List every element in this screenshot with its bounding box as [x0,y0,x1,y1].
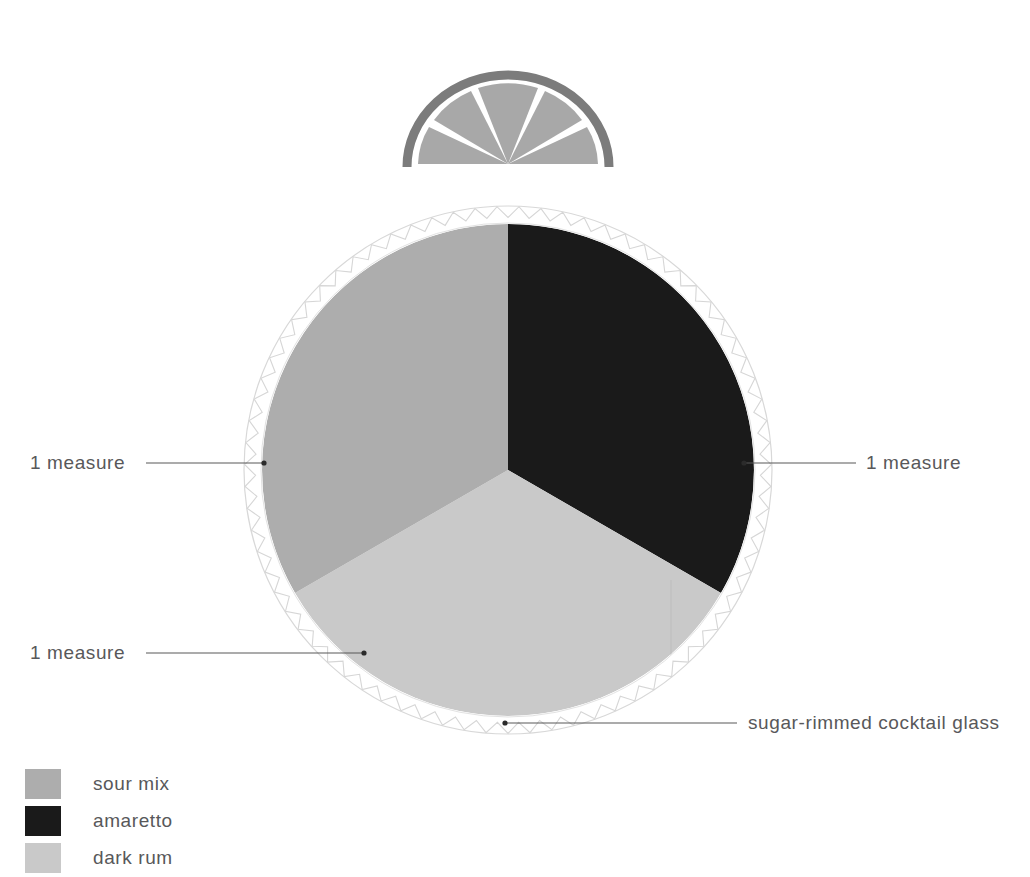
leader-dot-left-bottom [361,650,366,655]
legend-label-sour-mix: sour mix [93,774,170,793]
citrus-slice-garnish [407,75,609,167]
legend-label-dark-rum: dark rum [93,848,173,867]
legend-swatch-dark-rum [25,843,61,873]
callout-label-sour-mix: 1 measure [30,453,125,472]
callout-label-dark-rum: 1 measure [30,643,125,662]
callout-label-amaretto: 1 measure [866,453,961,472]
legend-label-amaretto: amaretto [93,811,173,830]
leader-dot-glass [502,720,507,725]
pie-slices [262,224,754,716]
callout-label-glass: sugar-rimmed cocktail glass [748,713,1000,732]
leader-dot-left-top [261,460,266,465]
legend-item-amaretto[interactable]: amaretto [25,803,325,838]
legend-swatch-sour-mix [25,769,61,799]
legend-item-dark-rum[interactable]: dark rum [25,840,325,875]
leader-dot-right [741,460,746,465]
legend-swatch-amaretto [25,806,61,836]
legend: sour mix amaretto dark rum [25,766,325,877]
legend-item-sour-mix[interactable]: sour mix [25,766,325,801]
